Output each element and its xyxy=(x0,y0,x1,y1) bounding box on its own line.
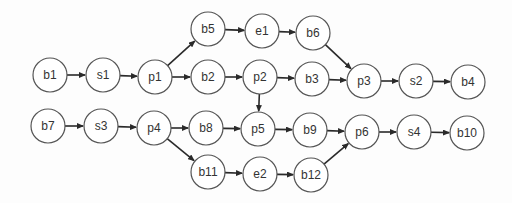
node-s4: s4 xyxy=(397,115,431,149)
node-label: b8 xyxy=(199,121,213,135)
directed-graph: b5e1b6b1s1p1b2p2b3p3s2b4b7s3p4b8p5b9p6s4… xyxy=(0,0,512,203)
node-label: p4 xyxy=(147,121,161,135)
node-label: b10 xyxy=(457,126,477,140)
edge-s3-to-p4 xyxy=(118,127,136,128)
node-p2: p2 xyxy=(243,60,277,94)
node-b4: b4 xyxy=(451,65,485,99)
node-label: p2 xyxy=(253,70,267,84)
node-b11: b11 xyxy=(191,155,225,189)
edge-e1-to-b6 xyxy=(279,32,295,33)
node-label: b4 xyxy=(461,75,475,89)
node-b5: b5 xyxy=(191,12,225,46)
diagram-canvas: b5e1b6b1s1p1b2p2b3p3s2b4b7s3p4b8p5b9p6s4… xyxy=(0,0,512,203)
node-e2: e2 xyxy=(243,157,277,191)
node-label: s2 xyxy=(410,74,423,88)
node-p3: p3 xyxy=(347,64,381,98)
edge-p2-to-p5 xyxy=(259,94,260,111)
node-label: b11 xyxy=(198,165,217,179)
node-b6: b6 xyxy=(296,16,330,50)
node-label: b2 xyxy=(201,70,215,84)
node-b1: b1 xyxy=(33,58,67,92)
node-p5: p5 xyxy=(241,112,275,146)
node-p6: p6 xyxy=(345,115,379,149)
node-s3: s3 xyxy=(84,109,118,143)
node-label: b5 xyxy=(201,22,215,36)
node-label: p5 xyxy=(251,122,265,136)
node-p4: p4 xyxy=(137,111,171,145)
node-label: b1 xyxy=(43,68,57,82)
node-b12: b12 xyxy=(294,158,328,192)
edge-b6-to-p3 xyxy=(325,45,351,69)
edge-b3-to-p3 xyxy=(329,80,346,81)
edge-layer xyxy=(65,30,450,175)
node-b2: b2 xyxy=(191,60,225,94)
node-label: p1 xyxy=(148,70,162,84)
node-label: s4 xyxy=(408,125,421,139)
node-label: b3 xyxy=(305,72,319,86)
node-b7: b7 xyxy=(31,109,65,143)
edge-s1-to-p1 xyxy=(120,76,137,77)
node-label: p3 xyxy=(357,74,371,88)
node-label: s1 xyxy=(97,68,110,82)
node-p1: p1 xyxy=(138,60,172,94)
node-label: b7 xyxy=(41,119,55,133)
node-label: e1 xyxy=(255,24,269,38)
node-label: b12 xyxy=(301,168,321,182)
node-layer: b5e1b6b1s1p1b2p2b3p3s2b4b7s3p4b8p5b9p6s4… xyxy=(31,12,485,192)
edge-p1-to-b5 xyxy=(168,41,195,66)
edge-p2-to-b3 xyxy=(277,78,294,79)
node-label: e2 xyxy=(253,167,267,181)
node-b9: b9 xyxy=(293,113,327,147)
node-s2: s2 xyxy=(399,64,433,98)
edge-b12-to-p6 xyxy=(324,144,348,164)
edge-b9-to-p6 xyxy=(327,131,344,132)
node-s1: s1 xyxy=(86,58,120,92)
node-label: p6 xyxy=(355,125,369,139)
node-e1: e1 xyxy=(245,14,279,48)
node-label: b9 xyxy=(303,123,317,137)
node-label: b6 xyxy=(306,26,320,40)
edge-b5-to-e1 xyxy=(225,30,244,31)
node-b8: b8 xyxy=(189,111,223,145)
node-label: s3 xyxy=(95,119,108,133)
edge-b11-to-e2 xyxy=(225,173,242,174)
node-b10: b10 xyxy=(450,116,484,150)
node-b3: b3 xyxy=(295,62,329,96)
edge-p4-to-b11 xyxy=(167,139,194,161)
